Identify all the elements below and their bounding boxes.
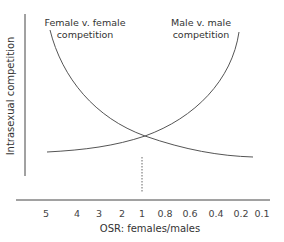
male-annotation-line1: Male v. male: [171, 17, 231, 28]
x-tick-label: 3: [96, 208, 102, 219]
x-tick-label: 0.8: [157, 208, 172, 219]
osr-competition-chart: Intrasexual competition Female v. female…: [0, 0, 284, 242]
female-annotation-line1: Female v. female: [44, 17, 125, 28]
male-annotation-line2: competition: [173, 29, 230, 40]
x-tick-label: 0.2: [233, 208, 248, 219]
x-tick-label: 0.4: [208, 208, 223, 219]
x-tick-label: 1: [139, 208, 145, 219]
x-tick-label: 0.6: [182, 208, 197, 219]
x-tick-label: 2: [119, 208, 125, 219]
x-tick-label: 4: [74, 208, 80, 219]
male-competition-curve: [47, 32, 239, 152]
x-tick-label: 0.1: [254, 208, 269, 219]
x-tick-label: 5: [43, 208, 49, 219]
y-axis-label: Intrasexual competition: [5, 37, 16, 156]
female-annotation-line2: competition: [57, 29, 114, 40]
x-axis-label: OSR: females/males: [100, 223, 200, 234]
female-competition-curve: [50, 30, 253, 157]
